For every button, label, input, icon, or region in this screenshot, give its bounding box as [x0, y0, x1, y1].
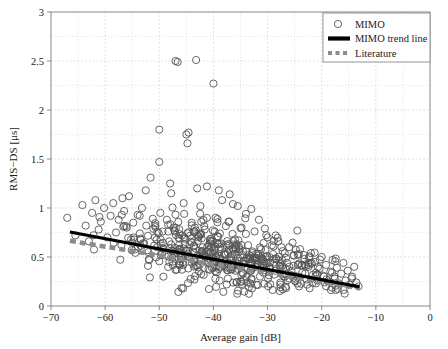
y-axis-title: RMS−DS [μs] [7, 127, 19, 191]
chart-figure: −70−60−50−40−30−20−10000.511.522.53 Aver… [0, 0, 448, 349]
legend-label: Literature [355, 48, 397, 59]
x-tick-label: 0 [427, 312, 432, 323]
legend-label: MIMO trend line [355, 33, 428, 44]
y-tick-label: 1 [39, 203, 44, 214]
y-tick-label: 2.5 [31, 56, 44, 67]
x-tick-label: −20 [314, 312, 330, 323]
x-tick-label: −70 [43, 312, 59, 323]
y-tick-label: 2 [39, 105, 44, 116]
chart-legend[interactable]: MIMOMIMO trend lineLiterature [323, 13, 430, 62]
y-tick-label: 1.5 [31, 154, 44, 165]
x-tick-label: −60 [97, 312, 113, 323]
scatter-plot-svg: −70−60−50−40−30−20−10000.511.522.53 Aver… [0, 0, 448, 349]
x-tick-label: −50 [151, 312, 167, 323]
y-tick-label: 0 [39, 301, 44, 312]
y-tick-label: 3 [39, 7, 44, 18]
y-tick-label: 0.5 [31, 252, 44, 263]
x-tick-label: −40 [205, 312, 221, 323]
legend-label: MIMO [355, 19, 385, 30]
x-axis-title: Average gain [dB] [200, 331, 281, 343]
x-tick-label: −30 [259, 312, 275, 323]
x-tick-label: −10 [368, 312, 384, 323]
